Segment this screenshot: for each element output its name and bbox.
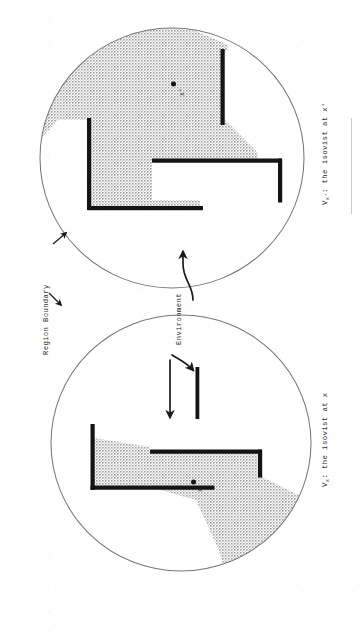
region-boundary-label: Region Boundary [42, 284, 50, 355]
caption-right-subscript: x' [325, 193, 331, 200]
viewpoint-label-x-prime: x' [179, 88, 186, 96]
figure-root: x' Vx': the isovist at x' [0, 0, 361, 632]
viewpoint-label-x: x [197, 488, 204, 492]
environment-standalone-wall [196, 367, 200, 419]
caption-left-rest: : the isovist at x [321, 392, 329, 478]
isovist-figure: x' Vx': the isovist at x' [0, 0, 361, 632]
environment-label: Environment [175, 293, 183, 345]
caption-right-rest: : the isovist at x' [321, 102, 329, 193]
